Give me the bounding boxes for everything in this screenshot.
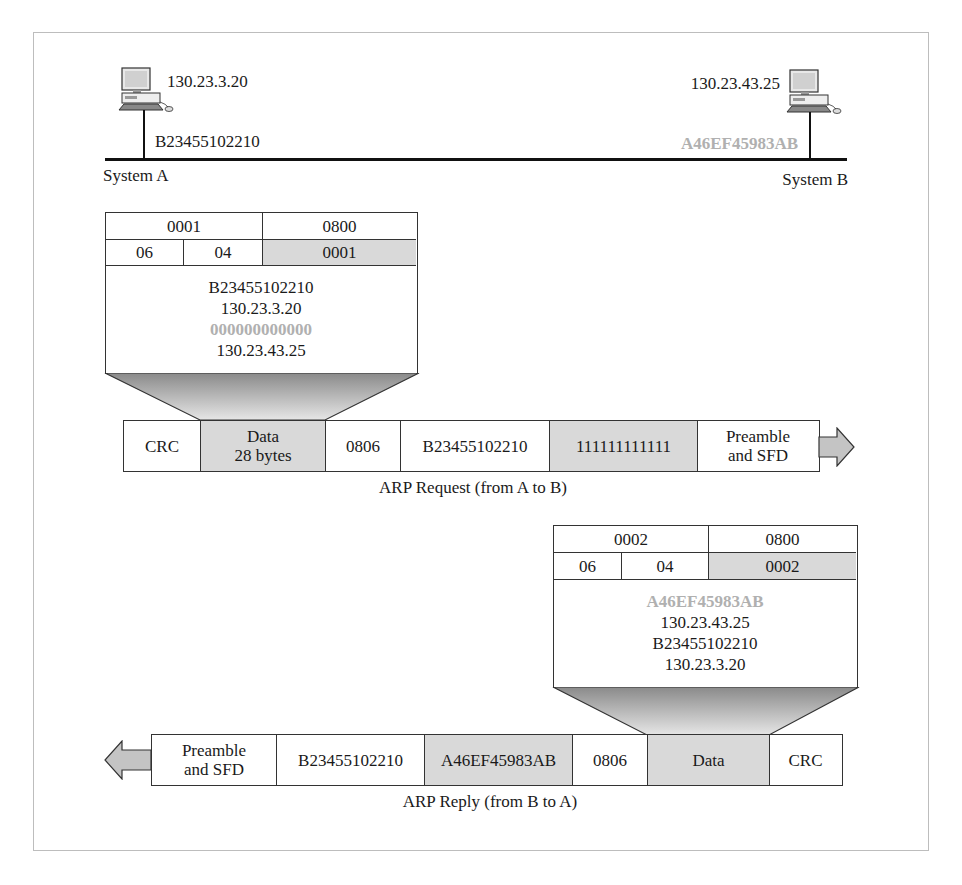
arp-request-frame: CRC Data 28 bytes 0806 B23455102210 1111… [123,420,820,472]
rep-operation: 0002 [709,553,856,580]
rep-frame-preamble: Preamble and SFD [152,735,277,785]
req-hardware-length: 06 [106,240,184,266]
arp-reply-packet: 0002 0800 06 04 0002 A46EF45983AB 130.23… [553,525,858,688]
req-operation: 0001 [263,240,416,266]
rep-hardware-length: 06 [554,553,622,580]
req-protocol-length: 04 [184,240,263,266]
req-target-mac: 000000000000 [210,319,312,340]
arp-reply-frame: Preamble and SFD B23455102210 A46EF45983… [151,734,843,786]
right-arrow-icon [818,427,856,467]
rep-sender-mac: A46EF45983AB [646,591,763,612]
system-b-label: System B [760,170,848,190]
rep-encapsulation-funnel [552,687,860,736]
rep-caption: ARP Reply (from B to A) [340,792,640,812]
req-frame-data: Data 28 bytes [201,421,326,471]
system-b-drop-line [809,112,811,159]
req-target-ip: 130.23.43.25 [216,340,305,361]
rep-protocol-type: 0800 [709,526,856,553]
rep-target-ip: 130.23.3.20 [665,654,746,675]
req-protocol-type: 0800 [263,213,416,240]
rep-frame-type: 0806 [573,735,648,785]
rep-protocol-length: 04 [622,553,709,580]
rep-sender-ip: 130.23.43.25 [660,612,749,633]
arp-request-packet: 0001 0800 06 04 0001 B23455102210 130.23… [105,212,418,374]
rep-frame-data: Data [648,735,770,785]
req-frame-crc: CRC [124,421,201,471]
req-caption: ARP Request (from A to B) [323,478,623,498]
system-a-ip: 130.23.3.20 [167,72,248,92]
req-hardware-type: 0001 [106,213,263,240]
system-a-label: System A [103,166,169,186]
req-sender-mac: B23455102210 [209,277,314,298]
system-a-drop-line [143,110,145,159]
rep-addresses: A46EF45983AB 130.23.43.25 B23455102210 1… [554,580,856,686]
rep-frame-destination: B23455102210 [277,735,425,785]
rep-target-mac: B23455102210 [653,633,758,654]
network-bus-line [105,158,847,161]
req-frame-source: B23455102210 [401,421,550,471]
rep-frame-source: A46EF45983AB [425,735,573,785]
req-encapsulation-funnel [104,373,420,421]
system-b-ip: 130.23.43.25 [682,74,780,94]
system-b-mac: A46EF45983AB [650,134,798,154]
req-frame-preamble: Preamble and SFD [698,421,818,471]
req-sender-ip: 130.23.3.20 [221,298,302,319]
computer-icon-system-b [784,68,850,122]
rep-frame-crc: CRC [770,735,841,785]
system-a-mac: B23455102210 [155,132,260,152]
rep-hardware-type: 0002 [554,526,709,553]
req-frame-destination: 111111111111 [550,421,698,471]
req-addresses: B23455102210 130.23.3.20 000000000000 13… [106,266,416,372]
left-arrow-icon [104,740,152,780]
req-frame-type: 0806 [326,421,401,471]
